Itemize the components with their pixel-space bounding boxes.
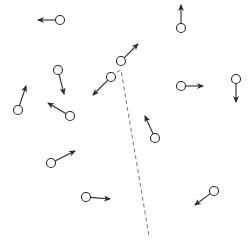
- velocity-arrow-icon: [93, 80, 108, 95]
- velocity-arrow-icon: [90, 197, 110, 199]
- particle-circle-icon: [47, 159, 56, 168]
- velocity-arrow-icon: [59, 74, 64, 94]
- particle-p10: [145, 116, 160, 143]
- particle-p6: [14, 86, 27, 115]
- particle-p7: [48, 103, 75, 121]
- particle-p3: [117, 44, 139, 66]
- particle-p1: [38, 16, 65, 25]
- particle-circle-icon: [107, 73, 116, 82]
- particle-p12: [82, 193, 111, 202]
- particle-circle-icon: [56, 16, 65, 25]
- particle-circle-icon: [14, 106, 23, 115]
- velocity-arrow-icon: [19, 86, 26, 106]
- dashed-trajectory-line: [117, 70, 149, 236]
- particle-p8: [177, 82, 204, 91]
- particle-circle-icon: [210, 187, 219, 196]
- velocity-arrow-icon: [55, 151, 75, 161]
- dashed-line: [117, 70, 149, 236]
- particle-p2: [177, 5, 186, 33]
- particle-circle-icon: [82, 193, 91, 202]
- velocity-arrow-icon: [145, 116, 153, 134]
- vector-field-diagram: [0, 0, 251, 242]
- particle-circle-icon: [177, 82, 186, 91]
- particle-p4: [93, 73, 116, 96]
- particle-circle-icon: [151, 134, 160, 143]
- particle-p9: [232, 75, 241, 103]
- particle-circle-icon: [117, 57, 126, 66]
- velocity-arrow-icon: [195, 194, 210, 205]
- particle-circle-icon: [66, 112, 75, 121]
- velocity-arrow-icon: [124, 44, 138, 58]
- particles: [14, 5, 241, 205]
- particle-p13: [195, 187, 219, 206]
- particle-circle-icon: [177, 24, 186, 33]
- particle-p11: [47, 151, 76, 168]
- particle-circle-icon: [54, 66, 63, 75]
- velocity-arrow-icon: [48, 103, 66, 114]
- particle-circle-icon: [232, 75, 241, 84]
- particle-p5: [54, 66, 65, 95]
